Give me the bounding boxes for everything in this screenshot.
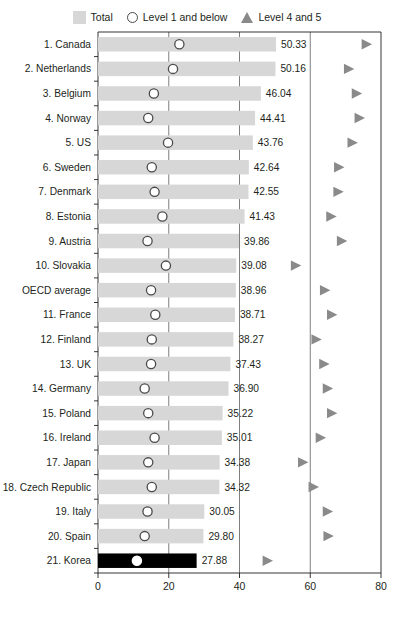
- total-bar: [98, 185, 249, 200]
- level45-marker: [327, 408, 337, 418]
- category-label: 2. Netherlands: [25, 63, 91, 74]
- bar-value-label: 46.04: [266, 88, 292, 99]
- level45-marker: [344, 64, 354, 74]
- bar-value-label: 29.80: [208, 531, 234, 542]
- bar-value-label: 39.08: [241, 260, 267, 271]
- category-label: 21. Korea: [47, 555, 92, 566]
- bar-value-label: 38.27: [238, 334, 264, 345]
- category-label: 12. Finland: [41, 334, 92, 345]
- bar-value-label: 37.43: [235, 359, 261, 370]
- total-bar: [98, 308, 235, 323]
- legend-label-level1-and-below: Level 1 and below: [143, 11, 228, 23]
- level45-marker: [348, 137, 358, 147]
- level1-marker: [147, 482, 156, 491]
- bar-value-label: 35.22: [228, 408, 254, 419]
- bar-value-label: 42.64: [254, 162, 280, 173]
- category-label: 16. Ireland: [43, 432, 91, 443]
- level1-marker: [143, 507, 152, 516]
- category-label: 11. France: [43, 309, 91, 320]
- total-bar: [98, 529, 203, 544]
- chart-legend: Total Level 1 and below Level 4 and 5: [0, 6, 394, 28]
- level1-marker: [147, 163, 156, 172]
- level45-marker: [327, 310, 337, 320]
- category-label: 19. Italy: [55, 506, 92, 517]
- bar-value-label: 42.55: [254, 186, 280, 197]
- bar-value-label: 35.01: [227, 432, 253, 443]
- legend-item-total: Total: [73, 11, 113, 24]
- level45-marker: [337, 236, 347, 246]
- level1-marker: [168, 64, 177, 73]
- circle-outline-icon: [127, 12, 138, 23]
- level1-marker: [146, 286, 155, 295]
- x-axis-tick-label: 20: [163, 580, 175, 590]
- bar-value-label: 44.41: [260, 113, 286, 124]
- category-label: 3. Belgium: [43, 88, 91, 99]
- category-label: 7. Denmark: [38, 186, 92, 197]
- level1-marker: [144, 113, 153, 122]
- total-bar: [98, 37, 276, 52]
- level45-marker: [352, 88, 362, 98]
- level45-marker: [298, 457, 308, 467]
- category-label: 10. Slovakia: [36, 260, 92, 271]
- level45-marker: [323, 383, 333, 393]
- category-label: 9. Austria: [49, 236, 92, 247]
- category-label: 1. Canada: [44, 39, 91, 50]
- level1-marker: [143, 236, 152, 245]
- bar-value-label: 38.71: [240, 309, 266, 320]
- bar-value-label: 34.38: [225, 457, 251, 468]
- total-bar: [98, 381, 229, 396]
- level45-marker: [311, 334, 321, 344]
- legend-label-level4-and-5: Level 4 and 5: [258, 11, 321, 23]
- level1-marker: [149, 89, 158, 98]
- level45-marker: [323, 506, 333, 516]
- total-bar: [98, 553, 197, 568]
- legend-label-total: Total: [91, 11, 113, 23]
- level1-marker: [151, 310, 160, 319]
- level1-marker: [175, 40, 184, 49]
- level45-marker: [320, 285, 330, 295]
- level1-marker: [150, 187, 159, 196]
- total-bar: [98, 480, 219, 495]
- bar-value-label: 30.05: [209, 506, 235, 517]
- legend-item-level4-and-5: Level 4 and 5: [241, 11, 321, 23]
- level45-marker: [355, 113, 365, 123]
- bar-value-label: 50.33: [281, 39, 307, 50]
- level1-marker: [161, 261, 170, 270]
- level45-marker: [263, 556, 273, 566]
- bar-value-label: 41.43: [250, 211, 276, 222]
- x-axis-tick-label: 40: [234, 580, 246, 590]
- legend-item-level1-and-below: Level 1 and below: [127, 11, 228, 23]
- category-label: OECD average: [22, 285, 91, 296]
- bar-value-label: 36.90: [234, 383, 260, 394]
- level1-marker: [158, 212, 167, 221]
- total-bar: [98, 111, 255, 126]
- total-bar: [98, 209, 245, 224]
- total-bar: [98, 234, 239, 249]
- level45-marker: [333, 187, 343, 197]
- level45-marker: [291, 260, 301, 270]
- bar-value-label: 27.88: [202, 555, 228, 566]
- category-label: 6. Sweden: [43, 162, 91, 173]
- level1-marker: [144, 409, 153, 418]
- total-bar: [98, 431, 222, 446]
- bar-value-label: 34.32: [224, 482, 250, 493]
- category-labels-group: 1. Canada2. Netherlands3. Belgium4. Norw…: [3, 39, 92, 566]
- category-label: 18. Czech Republic: [3, 482, 91, 493]
- x-axis-tick-label: 60: [304, 580, 316, 590]
- total-bar: [98, 357, 230, 372]
- level1-marker: [146, 359, 155, 368]
- category-label: 13. UK: [60, 359, 91, 370]
- total-bar: [98, 406, 223, 421]
- level1-marker: [144, 458, 153, 467]
- category-label: 4. Norway: [45, 113, 92, 124]
- chart-plot-area: 50.3350.1646.0444.4143.7642.6442.5541.43…: [0, 30, 394, 590]
- bar-value-label: 38.96: [241, 285, 267, 296]
- total-bar: [98, 135, 253, 150]
- level45-marker: [316, 433, 326, 443]
- level45-marker: [323, 531, 333, 541]
- level1-marker: [140, 532, 149, 541]
- x-axis-tick-label: 80: [375, 580, 387, 590]
- level45-marker: [319, 359, 329, 369]
- chart-svg: 50.3350.1646.0444.4143.7642.6442.5541.43…: [0, 30, 394, 590]
- total-bar: [98, 62, 275, 77]
